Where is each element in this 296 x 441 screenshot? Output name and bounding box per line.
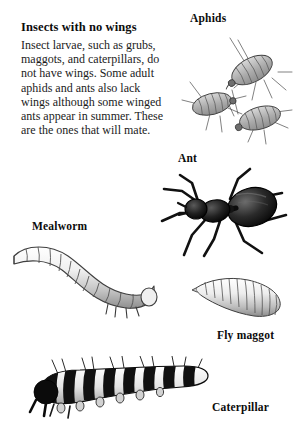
figure-label-caterpillar: Caterpillar bbox=[212, 401, 269, 413]
article-body-text: Insect larvae, such as grubs, maggots, a… bbox=[21, 38, 169, 137]
ant-illustration bbox=[158, 163, 296, 258]
fly-maggot-illustration bbox=[192, 266, 288, 328]
mealworm-illustration bbox=[8, 236, 160, 322]
figure-label-fly-maggot: Fly maggot bbox=[217, 329, 274, 341]
caterpillar-illustration bbox=[28, 356, 214, 420]
insect-page: Insects with no wings Insect larvae, suc… bbox=[0, 0, 296, 441]
page-title: Insects with no wings bbox=[21, 20, 181, 34]
figure-label-mealworm: Mealworm bbox=[32, 220, 87, 232]
aphids-illustration bbox=[168, 28, 296, 146]
figure-label-aphids: Aphids bbox=[190, 12, 226, 24]
